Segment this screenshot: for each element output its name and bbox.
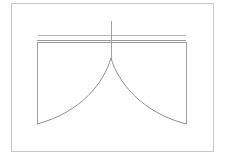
technical-line-drawing <box>0 0 228 164</box>
left-concave-arc <box>37 58 111 124</box>
page-border-rect <box>12 4 214 152</box>
right-concave-arc <box>111 58 186 124</box>
figure-canvas <box>0 0 228 164</box>
